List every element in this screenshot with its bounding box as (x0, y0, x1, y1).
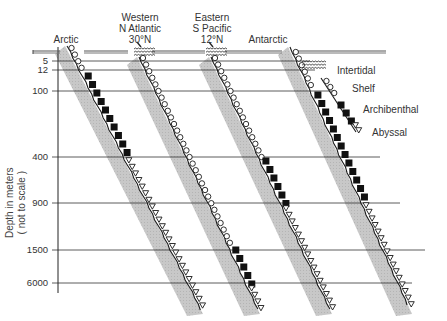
abyssal-triangle-icon (289, 219, 295, 224)
shelf-circle-icon (178, 135, 183, 140)
shelf-circle-icon (302, 69, 307, 74)
shelf-circle-icon (76, 59, 81, 64)
bathymetric-zonation-diagram (0, 0, 447, 321)
abyssal-triangle-icon (387, 256, 393, 261)
archibenthal-square-icon (357, 185, 364, 192)
region-label-1: WesternN Atlantic30°N (119, 12, 161, 45)
shelf-circle-icon (250, 135, 255, 140)
legend-intertidal-icon (302, 67, 326, 68)
legend-archibenthal-square-icon (343, 110, 350, 117)
abyssal-triangle-icon (283, 206, 289, 211)
abyssal-triangle-icon (299, 239, 305, 244)
archibenthal-square-icon (274, 183, 281, 190)
depth-tick-1500: 1500 (18, 244, 48, 255)
abyssal-triangle-icon (200, 303, 206, 308)
shelf-circle-icon (209, 201, 214, 206)
shelf-circle-icon (215, 62, 220, 67)
abyssal-triangle-icon (326, 298, 332, 303)
abyssal-triangle-icon (396, 275, 402, 280)
depth-tick-400: 400 (18, 151, 48, 162)
archibenthal-square-icon (322, 109, 329, 116)
slope-shading (55, 46, 203, 316)
abyssal-triangle-icon (405, 295, 411, 300)
intertidal-wavy-icon (134, 51, 155, 52)
shelf-circle-icon (202, 187, 207, 192)
shelf-circle-icon (143, 62, 148, 67)
archibenthal-square-icon (124, 149, 131, 156)
shelf-circle-icon (221, 227, 226, 232)
shelf-circle-icon (69, 45, 74, 50)
shelf-circle-icon (184, 148, 189, 153)
shelf-circle-icon (140, 55, 145, 60)
abyssal-triangle-icon (408, 302, 414, 307)
abyssal-triangle-icon (133, 171, 139, 176)
shelf-circle-icon (308, 82, 313, 87)
shelf-circle-icon (199, 181, 204, 186)
abyssal-triangle-icon (330, 305, 336, 310)
archibenthal-square-icon (106, 115, 113, 122)
abyssal-triangle-icon (320, 285, 326, 290)
shelf-circle-icon (253, 141, 258, 146)
archibenthal-square-icon (262, 158, 269, 165)
shelf-circle-icon (72, 52, 77, 57)
shelf-circle-icon (212, 207, 217, 212)
shelf-circle-icon (237, 108, 242, 113)
shelf-circle-icon (187, 154, 192, 159)
shelf-circle-icon (174, 128, 179, 133)
shelf-circle-icon (212, 55, 217, 60)
archibenthal-square-icon (119, 141, 126, 148)
archibenthal-square-icon (326, 117, 333, 124)
legend-label-abyssal: Abyssal (372, 127, 407, 138)
legend-archibenthal-square-icon (338, 102, 345, 109)
abyssal-triangle-icon (390, 262, 396, 267)
archibenthal-square-icon (342, 151, 349, 158)
abyssal-triangle-icon (249, 286, 255, 291)
archibenthal-square-icon (111, 124, 118, 131)
legend-shelf-circle-icon (328, 84, 333, 89)
shelf-circle-icon (246, 128, 251, 133)
abyssal-triangle-icon (366, 209, 372, 214)
shelf-circle-icon (218, 220, 223, 225)
y-axis-label: Depth in meters ( not to scale ) (4, 167, 28, 238)
archibenthal-square-icon (318, 100, 325, 107)
legend-label-intertidal: Intertidal (337, 65, 375, 76)
shelf-circle-icon (171, 121, 176, 126)
abyssal-triangle-icon (196, 296, 202, 301)
abyssal-triangle-icon (369, 216, 375, 221)
archibenthal-square-icon (236, 255, 243, 262)
depth-tick-12: 12 (18, 64, 48, 75)
abyssal-triangle-icon (143, 191, 149, 196)
abyssal-triangle-icon (292, 226, 298, 231)
archibenthal-square-icon (89, 81, 96, 88)
shelf-circle-icon (196, 174, 201, 179)
slope-line (139, 57, 258, 309)
archibenthal-square-icon (270, 175, 277, 182)
shelf-circle-icon (234, 102, 239, 107)
shelf-circle-icon (168, 115, 173, 120)
legend-shelf-circle-icon (332, 90, 337, 95)
shelf-circle-icon (181, 141, 186, 146)
intertidal-wavy-icon (206, 48, 227, 49)
abyssal-triangle-icon (286, 212, 292, 217)
shelf-circle-icon (224, 234, 229, 239)
shelf-circle-icon (256, 148, 261, 153)
legend-intertidal-icon (302, 61, 326, 62)
shelf-circle-icon (165, 108, 170, 113)
abyssal-triangle-icon (258, 306, 264, 311)
archibenthal-square-icon (278, 192, 285, 199)
abyssal-triangle-icon (314, 272, 320, 277)
region-label-2: EasternS Pacific12°N (193, 12, 232, 45)
archibenthal-square-icon (93, 90, 100, 97)
shelf-circle-icon (153, 82, 158, 87)
abyssal-triangle-icon (166, 237, 172, 242)
abyssal-triangle-icon (378, 236, 384, 241)
legend-intertidal-icon (302, 64, 326, 65)
legend-shelf-circle-icon (324, 78, 329, 83)
shelf-circle-icon (228, 88, 233, 93)
archibenthal-square-icon (244, 272, 251, 279)
archibenthal-square-icon (266, 166, 273, 173)
archibenthal-square-icon (98, 98, 105, 105)
depth-tick-100: 100 (18, 85, 48, 96)
shelf-circle-icon (240, 115, 245, 120)
legend-abyssal-triangle-icon (356, 128, 362, 133)
